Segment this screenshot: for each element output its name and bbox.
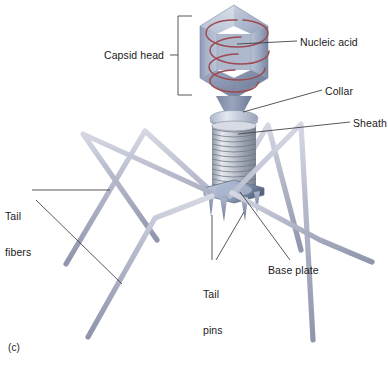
base-plate-leader (240, 192, 290, 260)
sheath-top-cap (212, 121, 256, 131)
phage-illustration (0, 0, 388, 368)
label-base-plate: Base plate (268, 264, 319, 276)
tail-fiber-1 (83, 134, 210, 240)
tail-pins-leader-2 (216, 212, 244, 260)
label-nucleic-acid: Nucleic acid (300, 36, 358, 48)
label-collar: Collar (325, 85, 353, 97)
capsid-head-bracket (178, 16, 192, 95)
label-tail-pins: Tail pins (203, 264, 223, 360)
capsid-head (200, 5, 269, 99)
label-capsid-head: Capsid head (104, 49, 164, 61)
label-tail-pins-line1: Tail (203, 288, 223, 300)
tail-fibers-leader-2 (36, 200, 122, 284)
collar-leader (243, 90, 322, 112)
tail-fibers-group (66, 125, 301, 264)
bacteriophage-figure: Capsid head Nucleic acid Collar Sheath T… (0, 0, 388, 368)
tail-fiber-2 (88, 196, 212, 337)
label-tail-fibers: Tail fibers (5, 186, 31, 282)
label-tail-fibers-line1: Tail (5, 210, 31, 222)
capsid-facet-right (251, 26, 268, 78)
label-tail-pins-line2: pins (203, 324, 223, 336)
capsid-facet-left (200, 26, 217, 78)
label-sheath: Sheath (353, 117, 387, 129)
label-tail-fibers-line2: fibers (5, 246, 31, 258)
panel-label: (c) (8, 342, 20, 354)
tail-pin-2 (220, 198, 227, 222)
